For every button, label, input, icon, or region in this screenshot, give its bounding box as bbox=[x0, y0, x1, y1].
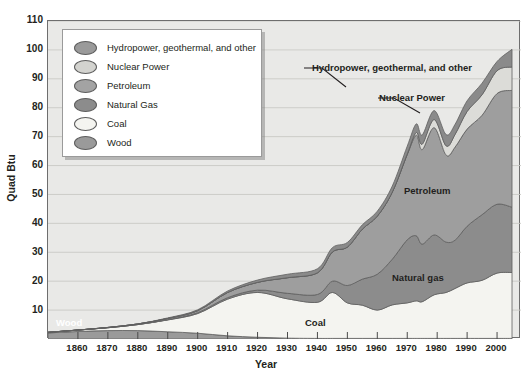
annotation-petroleum: Petroleum bbox=[404, 185, 450, 196]
y-tick-80: 80 bbox=[3, 102, 43, 112]
legend-label-coal: Coal bbox=[107, 118, 127, 129]
x-tick-1900: 1900 bbox=[186, 342, 207, 353]
annotation-wood: Wood bbox=[56, 317, 82, 328]
legend-item-petroleum[interactable]: Petroleum bbox=[63, 76, 261, 95]
legend-item-natural-gas[interactable]: Natural Gas bbox=[63, 95, 261, 114]
legend-swatch-nuclear bbox=[74, 60, 97, 74]
y-tick-40: 40 bbox=[3, 218, 43, 228]
legend-swatch-natural-gas bbox=[74, 98, 97, 112]
x-tick-1960: 1960 bbox=[366, 342, 387, 353]
legend-swatch-hydropower bbox=[74, 41, 97, 55]
legend-label-natural-gas: Natural Gas bbox=[107, 99, 158, 110]
y-tick-100: 100 bbox=[3, 44, 43, 54]
x-tick-1890: 1890 bbox=[156, 342, 177, 353]
annotation-coal: Coal bbox=[305, 317, 326, 328]
y-tick-70: 70 bbox=[3, 131, 43, 141]
x-tick-1860: 1860 bbox=[66, 342, 87, 353]
y-tick-110: 110 bbox=[3, 15, 43, 25]
legend-label-hydropower: Hydropower, geothermal, and other bbox=[107, 42, 256, 53]
x-tick-1940: 1940 bbox=[306, 342, 327, 353]
x-tick-2000: 2000 bbox=[485, 342, 506, 353]
legend-item-wood[interactable]: Wood bbox=[63, 133, 261, 152]
annotation-natural-gas: Natural gas bbox=[392, 272, 444, 283]
legend-item-hydropower[interactable]: Hydropower, geothermal, and other bbox=[63, 38, 261, 57]
x-tick-1950: 1950 bbox=[336, 342, 357, 353]
legend-label-nuclear: Nuclear Power bbox=[107, 61, 169, 72]
x-tick-1930: 1930 bbox=[276, 342, 297, 353]
legend: Hydropower, geothermal, and other Nuclea… bbox=[62, 29, 262, 157]
x-tick-1870: 1870 bbox=[96, 342, 117, 353]
y-tick-30: 30 bbox=[3, 247, 43, 257]
legend-item-coal[interactable]: Coal bbox=[63, 114, 261, 133]
x-tick-1980: 1980 bbox=[426, 342, 447, 353]
annotation-nuclear: Nuclear Power bbox=[379, 92, 445, 103]
legend-item-nuclear[interactable]: Nuclear Power bbox=[63, 57, 261, 76]
x-tick-1910: 1910 bbox=[216, 342, 237, 353]
legend-label-wood: Wood bbox=[107, 137, 132, 148]
x-tick-1990: 1990 bbox=[456, 342, 477, 353]
x-tick-1920: 1920 bbox=[246, 342, 267, 353]
y-tick-20: 20 bbox=[3, 276, 43, 286]
y-axis-label: Quad Btu bbox=[5, 148, 17, 208]
legend-swatch-coal bbox=[74, 117, 97, 131]
x-tick-1880: 1880 bbox=[126, 342, 147, 353]
y-tick-90: 90 bbox=[3, 73, 43, 83]
annotation-leader-lines bbox=[304, 68, 420, 113]
figure-container: 110 100 90 80 70 60 50 40 30 20 10 Quad … bbox=[0, 0, 532, 387]
x-tick-1970: 1970 bbox=[396, 342, 417, 353]
annotation-hydropower: Hydropower, geothermal, and other bbox=[312, 62, 472, 73]
x-axis-label: Year bbox=[0, 358, 532, 370]
legend-swatch-wood bbox=[74, 136, 97, 150]
y-tick-10: 10 bbox=[3, 305, 43, 315]
legend-label-petroleum: Petroleum bbox=[107, 80, 150, 91]
legend-swatch-petroleum bbox=[74, 79, 97, 93]
